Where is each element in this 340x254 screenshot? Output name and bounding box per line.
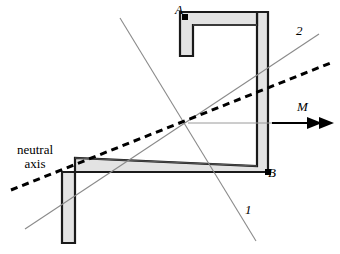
point-a-label: A [175, 3, 183, 17]
section-inner-edges [75, 25, 257, 166]
principal-axis-2-label: 2 [296, 24, 303, 38]
point-b-label: B [268, 166, 276, 180]
moment-vector [272, 117, 334, 129]
neutral-axis-label-line1: neutral [6, 143, 64, 157]
neutral-axis-label: neutral axis [6, 143, 64, 171]
principal-axis-2-line [25, 34, 319, 229]
moment-label: M [297, 100, 308, 114]
principal-axis-1-label: 1 [245, 203, 252, 217]
diagram-root: A B 1 2 M neutral axis [0, 0, 340, 254]
section-notch-outline [180, 12, 257, 56]
moment-arrowhead-outer-icon [319, 117, 334, 129]
neutral-axis-label-line2: axis [6, 157, 64, 171]
cross-section-diagram [0, 0, 340, 254]
section-outer-outline [62, 12, 268, 243]
section-body [62, 12, 268, 243]
